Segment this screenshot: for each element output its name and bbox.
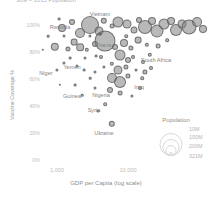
data-bubble[interactable] xyxy=(99,33,102,36)
point-label: Iraq xyxy=(134,84,144,90)
data-bubble[interactable] xyxy=(149,66,153,70)
x-axis-tick: 1,000 xyxy=(50,167,64,173)
data-bubble[interactable] xyxy=(156,44,161,49)
data-bubble[interactable] xyxy=(47,35,50,38)
data-bubble[interactable] xyxy=(102,65,105,68)
data-bubble[interactable] xyxy=(165,38,169,42)
data-bubble[interactable] xyxy=(69,57,72,60)
bubble-chart: Size = 2015 Population 100%80%60%40%20%0… xyxy=(0,0,212,197)
data-bubble[interactable] xyxy=(199,25,207,33)
point-label: Ghana xyxy=(95,42,112,48)
data-bubble[interactable] xyxy=(142,69,147,74)
x-axis-tick: 10,000 xyxy=(119,167,136,173)
data-bubble[interactable] xyxy=(109,121,115,127)
data-bubble[interactable] xyxy=(94,87,97,90)
point-label: Syria xyxy=(88,107,101,113)
point-label: Guinea xyxy=(63,93,81,99)
data-bubble[interactable] xyxy=(114,76,126,88)
data-bubble[interactable] xyxy=(42,49,44,51)
data-bubble[interactable] xyxy=(135,69,138,72)
data-bubble[interactable] xyxy=(120,39,128,47)
data-bubble[interactable] xyxy=(95,55,98,58)
legend-size-label: 10M xyxy=(189,126,200,132)
data-bubble[interactable] xyxy=(59,84,61,86)
legend-size-label: 321M xyxy=(189,153,203,159)
data-bubble[interactable] xyxy=(130,94,133,97)
data-bubble[interactable] xyxy=(123,64,128,69)
data-bubble[interactable] xyxy=(94,71,97,74)
point-label: Vietnam xyxy=(90,11,110,17)
data-bubble[interactable] xyxy=(125,73,130,78)
plot-area: VietnamRwandaGhanaSouth AfricaNigerYemen… xyxy=(0,0,212,197)
point-label: Ukraine xyxy=(94,130,113,136)
data-bubble[interactable] xyxy=(84,57,87,60)
data-bubble[interactable] xyxy=(135,37,142,44)
data-bubble[interactable] xyxy=(131,55,135,59)
point-label: Niger xyxy=(39,70,52,76)
x-axis-title: GDP per Capita (log scale) xyxy=(0,180,212,186)
data-bubble[interactable] xyxy=(145,43,149,47)
legend-size-circle xyxy=(160,133,183,156)
data-bubble[interactable] xyxy=(51,43,59,51)
data-bubble[interactable] xyxy=(76,43,84,51)
point-label: Yemen xyxy=(63,64,80,70)
data-bubble[interactable] xyxy=(58,18,61,21)
data-bubble[interactable] xyxy=(74,84,77,87)
data-bubble[interactable] xyxy=(85,48,89,52)
data-bubble[interactable] xyxy=(140,76,144,80)
data-bubble[interactable] xyxy=(124,34,128,38)
data-bubble[interactable] xyxy=(103,102,107,106)
data-bubble[interactable] xyxy=(101,18,107,24)
data-bubble[interactable] xyxy=(55,68,58,71)
point-label: Rwanda xyxy=(50,24,71,30)
legend-title: Population xyxy=(162,117,189,123)
data-bubble[interactable] xyxy=(63,35,66,38)
data-bubble[interactable] xyxy=(125,57,131,63)
data-bubble[interactable] xyxy=(89,77,92,80)
legend-size-label: 200M xyxy=(189,143,203,149)
data-bubble[interactable] xyxy=(65,46,70,51)
data-bubble[interactable] xyxy=(115,50,126,61)
data-bubble[interactable] xyxy=(88,34,91,37)
legend-size-label: 100M xyxy=(189,134,203,140)
data-bubble[interactable] xyxy=(81,94,84,97)
point-label: Nigeria xyxy=(92,92,110,98)
data-bubble[interactable] xyxy=(99,55,103,59)
data-bubble[interactable] xyxy=(110,62,114,66)
data-bubble[interactable] xyxy=(131,27,138,34)
point-label: South Africa xyxy=(141,57,171,63)
data-bubble[interactable] xyxy=(118,91,123,96)
data-bubble[interactable] xyxy=(83,69,86,72)
data-bubble[interactable] xyxy=(128,45,133,50)
